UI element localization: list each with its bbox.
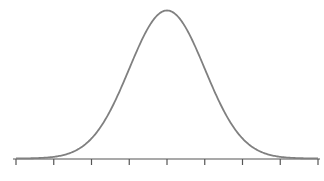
bell-curve-chart [0,0,324,181]
normal-curve [16,11,318,159]
x-axis-ticks [16,159,318,165]
